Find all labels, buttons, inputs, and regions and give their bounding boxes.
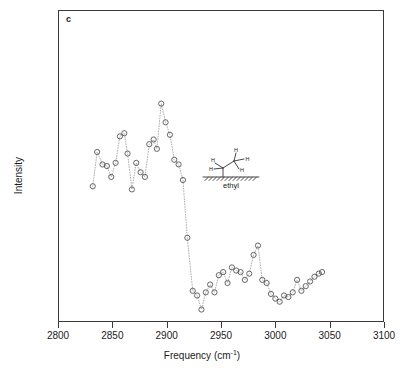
x-tick-label: 2900	[147, 330, 187, 341]
x-tick-mark	[384, 322, 385, 328]
atom-label-h: H	[211, 157, 215, 163]
x-tick-mark	[330, 322, 331, 328]
x-axis-label-close: )	[237, 350, 240, 361]
x-tick-mark	[112, 322, 113, 328]
x-tick-label: 3050	[310, 330, 350, 341]
atom-label-h: H	[240, 167, 244, 173]
x-tick-mark	[58, 322, 59, 328]
y-axis-label: Intensity	[13, 136, 24, 216]
x-tick-label: 3100	[364, 330, 404, 341]
inset-caption: ethyl	[201, 181, 261, 190]
x-axis-label-main: Frequency (cm	[164, 350, 231, 361]
panel-label: c	[66, 14, 71, 24]
atom-label-h: H	[246, 156, 250, 162]
x-axis-label: Frequency (cm-1)	[0, 349, 404, 361]
atom-label-h: H	[209, 166, 213, 172]
x-tick-mark	[275, 322, 276, 328]
atom-label-h: H	[234, 147, 238, 153]
x-tick-label: 2800	[38, 330, 78, 341]
x-tick-label: 3000	[255, 330, 295, 341]
x-tick-mark	[167, 322, 168, 328]
x-tick-label: 2850	[92, 330, 132, 341]
spectrum-figure: c	[0, 0, 404, 377]
x-tick-mark	[221, 322, 222, 328]
x-tick-label: 2950	[201, 330, 241, 341]
